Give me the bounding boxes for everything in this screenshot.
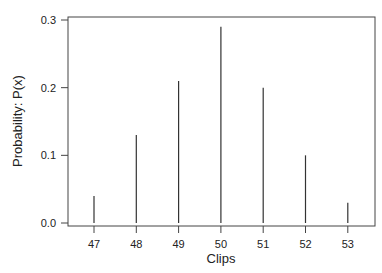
y-tick-label: 0.1 bbox=[41, 149, 56, 161]
y-axis-title: Probability: P(x) bbox=[10, 75, 25, 167]
y-tick-label: 0.0 bbox=[41, 217, 56, 229]
probability-spikes bbox=[94, 27, 348, 223]
x-axis-title: Clips bbox=[207, 251, 236, 266]
x-axis: 47484950515253 bbox=[88, 226, 354, 250]
y-tick-label: 0.2 bbox=[41, 82, 56, 94]
x-tick-label: 48 bbox=[130, 238, 142, 250]
x-tick-label: 52 bbox=[299, 238, 311, 250]
x-tick-label: 47 bbox=[88, 238, 100, 250]
x-tick-label: 53 bbox=[342, 238, 354, 250]
plot-frame bbox=[68, 17, 375, 226]
x-tick-label: 49 bbox=[172, 238, 184, 250]
y-axis: 0.00.10.20.3 bbox=[41, 14, 68, 229]
x-tick-label: 50 bbox=[215, 238, 227, 250]
y-tick-label: 0.3 bbox=[41, 14, 56, 26]
x-tick-label: 51 bbox=[257, 238, 269, 250]
probability-chart: 0.00.10.20.3 47484950515253 Clips Probab… bbox=[0, 0, 382, 273]
